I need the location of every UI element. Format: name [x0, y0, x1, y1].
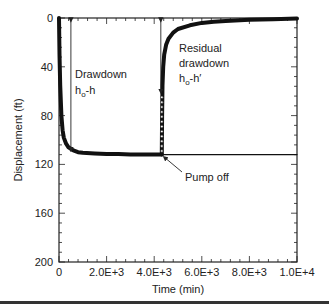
- x-axis-ticks: [59, 18, 297, 262]
- data-point-marker: [161, 125, 164, 128]
- data-point-marker: [161, 101, 164, 104]
- x-tick-label: 6.0E+3: [184, 266, 219, 278]
- y-tick-label: 120: [35, 158, 53, 170]
- annotations: Drawdown ho-h Residual drawdown ho-h′ Pu…: [71, 20, 230, 183]
- data-point-marker: [161, 135, 164, 138]
- x-tick-label: 4.0E+3: [137, 266, 172, 278]
- pump-off-label: Pump off: [185, 171, 230, 183]
- data-point-marker: [161, 120, 164, 123]
- y-tick-label: 0: [47, 12, 53, 24]
- data-point-marker: [161, 96, 164, 99]
- y-axis-ticks: [59, 18, 297, 262]
- drawdown-recovery-chart: 04080120160200 02.0E+34.0E+36.0E+38.0E+3…: [0, 0, 329, 306]
- x-axis-title: Time (min): [152, 283, 204, 295]
- plot-frame: [59, 18, 297, 262]
- plot-border: [59, 18, 297, 262]
- residual-formula: ho-h′: [179, 72, 201, 87]
- drawdown-label: Drawdown: [75, 68, 127, 80]
- x-tick-label: 1.0E+4: [279, 266, 314, 278]
- drawdown-formula: ho-h: [75, 84, 95, 99]
- data-point-marker: [161, 111, 164, 114]
- y-tick-label: 80: [41, 110, 53, 122]
- residual-label-1: Residual: [179, 42, 222, 54]
- x-axis-tick-labels: 02.0E+34.0E+36.0E+38.0E+31.0E+4: [56, 266, 315, 278]
- y-tick-label: 160: [35, 207, 53, 219]
- data-point-marker: [161, 150, 164, 153]
- bottom-rule: [0, 301, 329, 304]
- y-axis-tick-labels: 04080120160200: [35, 12, 53, 268]
- x-tick-label: 2.0E+3: [89, 266, 124, 278]
- y-axis-title: Displacement (ft): [12, 98, 24, 181]
- x-tick-label: 8.0E+3: [232, 266, 267, 278]
- y-tick-label: 200: [35, 256, 53, 268]
- x-tick-label: 0: [56, 266, 62, 278]
- data-point-marker: [161, 106, 164, 109]
- series-line: [162, 19, 297, 155]
- pump-off-arrow: [165, 158, 182, 172]
- y-tick-label: 40: [41, 61, 53, 73]
- data-point-marker: [161, 130, 164, 133]
- data-point-marker: [161, 116, 164, 119]
- residual-label-2: drawdown: [179, 57, 229, 69]
- data-point-marker: [161, 145, 164, 148]
- data-point-marker: [161, 140, 164, 143]
